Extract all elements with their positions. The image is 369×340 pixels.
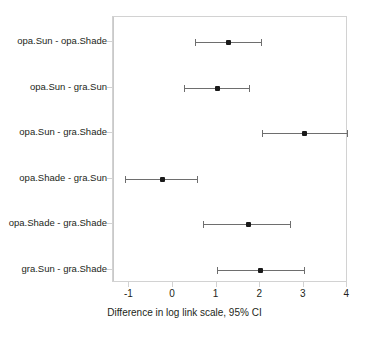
x-axis-tick-label: 2 [244, 288, 274, 300]
x-axis-tick [303, 282, 304, 287]
x-axis-title: Difference in log link scale, 95% CI [0, 306, 369, 319]
ci-upper-cap [347, 130, 348, 137]
estimate-point [160, 177, 165, 182]
estimate-point [215, 86, 220, 91]
x-axis-tick-label: 0 [157, 288, 187, 300]
ci-upper-cap [197, 176, 198, 183]
y-axis-tick-label: opa.Sun - gra.Sun [30, 82, 107, 92]
x-axis-tick-label: 3 [288, 288, 318, 300]
y-axis-tick [107, 223, 112, 224]
x-axis-tick [172, 282, 173, 287]
y-axis-tick [107, 269, 112, 270]
x-axis-tick [346, 282, 347, 287]
ci-lower-cap [203, 221, 204, 228]
forest-plot-chart: opa.Sun - opa.Shadeopa.Sun - gra.Sunopa.… [0, 0, 369, 340]
y-axis-tick [107, 178, 112, 179]
plot-panel [112, 16, 347, 282]
ci-upper-cap [261, 39, 262, 46]
ci-lower-cap [217, 267, 218, 274]
x-axis-tick-label: -1 [113, 288, 143, 300]
ci-lower-cap [125, 176, 126, 183]
y-axis-tick-label: opa.Sun - opa.Shade [17, 36, 107, 46]
y-axis-tick [107, 132, 112, 133]
y-axis-tick-label: opa.Shade - gra.Sun [19, 173, 107, 183]
y-axis-tick-label: opa.Sun - gra.Shade [19, 127, 107, 137]
ci-upper-cap [304, 267, 305, 274]
ci-upper-cap [249, 85, 250, 92]
ci-lower-cap [195, 39, 196, 46]
zero-reference-line [113, 17, 114, 281]
ci-upper-cap [290, 221, 291, 228]
x-axis-tick [259, 282, 260, 287]
x-axis-tick-label: 4 [331, 288, 361, 300]
y-axis-tick [107, 41, 112, 42]
y-axis-tick-label: gra.Sun - gra.Shade [21, 264, 107, 274]
estimate-point [258, 268, 263, 273]
y-axis-tick [107, 87, 112, 88]
estimate-point [226, 40, 231, 45]
estimate-point [246, 222, 251, 227]
ci-lower-cap [262, 130, 263, 137]
x-axis-tick-label: 1 [201, 288, 231, 300]
estimate-point [302, 131, 307, 136]
x-axis-tick [128, 282, 129, 287]
ci-lower-cap [184, 85, 185, 92]
y-axis-tick-label: opa.Shade - gra.Shade [9, 218, 107, 228]
x-axis-tick [216, 282, 217, 287]
